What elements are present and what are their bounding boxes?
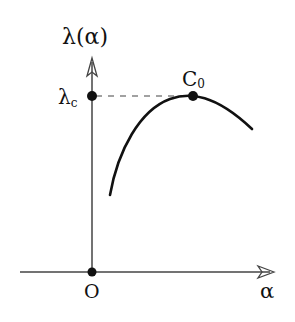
y-axis: [87, 58, 97, 272]
critical-value-point: [87, 91, 97, 101]
lambda-curve: [110, 96, 252, 195]
origin-point: [88, 268, 97, 277]
origin-label: O: [84, 280, 100, 302]
max-point-c0: [188, 91, 198, 101]
y-axis-label: λ(α): [62, 24, 108, 49]
x-axis-label: α: [260, 279, 274, 303]
critical-value-label: λc: [58, 85, 78, 110]
max-point-label: C0: [182, 67, 205, 91]
x-axis: [20, 266, 274, 278]
lambda-alpha-diagram: λ(α) λc C0 O α: [0, 0, 295, 322]
